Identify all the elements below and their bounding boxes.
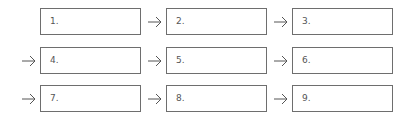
step-box-7: 7. — [40, 85, 141, 112]
right-arrow-icon — [147, 55, 163, 67]
step-label: 6. — [302, 55, 311, 65]
step-label: 3. — [302, 16, 311, 26]
step-box-5: 5. — [166, 47, 267, 74]
right-arrow-icon — [21, 55, 37, 67]
step-label: 1. — [50, 16, 59, 26]
step-box-2: 2. — [166, 8, 267, 35]
step-box-6: 6. — [292, 47, 393, 74]
step-label: 5. — [176, 55, 185, 65]
step-label: 9. — [302, 93, 311, 103]
step-label: 4. — [50, 55, 59, 65]
step-label: 8. — [176, 93, 185, 103]
right-arrow-icon — [147, 16, 163, 28]
step-label: 7. — [50, 93, 59, 103]
right-arrow-icon — [21, 93, 37, 105]
step-box-8: 8. — [166, 85, 267, 112]
step-label: 2. — [176, 16, 185, 26]
right-arrow-icon — [273, 93, 289, 105]
step-box-9: 9. — [292, 85, 393, 112]
step-box-4: 4. — [40, 47, 141, 74]
step-box-3: 3. — [292, 8, 393, 35]
right-arrow-icon — [147, 93, 163, 105]
right-arrow-icon — [273, 55, 289, 67]
right-arrow-icon — [273, 16, 289, 28]
step-box-1: 1. — [40, 8, 141, 35]
